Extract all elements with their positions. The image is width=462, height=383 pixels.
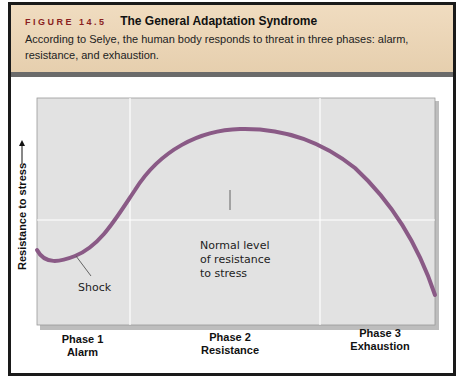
phase1-name: Alarm [55, 346, 110, 359]
phase2-name: Resistance [200, 344, 260, 357]
normal-level-label-3: to stress [200, 267, 247, 280]
chart-plot: Shock Normal level of resistance to stre… [0, 0, 462, 383]
phase3-label: Phase 3 Exhaustion [348, 327, 412, 353]
phase3-name: Exhaustion [348, 340, 412, 353]
phase1-number: Phase 1 [55, 333, 110, 346]
phase2-label: Phase 2 Resistance [200, 331, 260, 357]
phase3-number: Phase 3 [348, 327, 412, 340]
arrow-up-icon [19, 140, 25, 146]
normal-level-label-1: Normal level [200, 239, 269, 252]
normal-level-label-2: of resistance [200, 253, 271, 266]
shock-label: Shock [78, 281, 112, 294]
phase1-label: Phase 1 Alarm [55, 333, 110, 359]
y-axis-label: Resistance to stress [16, 163, 28, 270]
phase2-number: Phase 2 [200, 331, 260, 344]
